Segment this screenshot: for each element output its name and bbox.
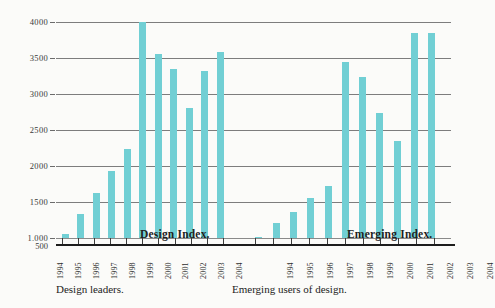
x-axis-label-design-1998: 1998	[129, 249, 137, 279]
x-axis-label-design-2004: 2004	[236, 249, 244, 279]
bar-emerging-2004	[428, 33, 435, 238]
y-tick-dash	[50, 166, 55, 167]
x-tick-emerging-1998	[327, 238, 328, 244]
x-axis-labels-emerging: 1994199519961997199819992000200120022003…	[287, 249, 495, 279]
x-axis-line	[56, 244, 455, 246]
x-tick-emerging-2004	[434, 238, 435, 244]
bar-emerging-2001	[376, 113, 383, 238]
x-tick-emerging-1997	[309, 238, 310, 244]
x-tick-emerging-2000	[363, 238, 364, 244]
x-axis-labels-design: 1994199519961997199819992000200120022003…	[57, 249, 244, 279]
bar-emerging-1999	[342, 62, 349, 238]
x-tick-emerging-1996	[291, 238, 292, 244]
bar-design-1995	[77, 214, 84, 238]
x-axis-label-emerging-1998: 1998	[367, 249, 375, 279]
bar-design-2003	[201, 71, 208, 238]
y-axis-tick-1500: 1500	[0, 197, 48, 207]
x-axis-label-emerging-1999: 1999	[387, 249, 395, 279]
x-axis-label-design-2003: 2003	[218, 249, 226, 279]
x-axis-label-emerging-2002: 2002	[447, 249, 455, 279]
bar-emerging-2003	[411, 33, 418, 238]
y-tick-dash	[50, 202, 55, 203]
bar-design-2004	[217, 52, 224, 238]
x-tick-design-1995	[78, 238, 79, 244]
x-tick-design-1996	[94, 238, 95, 244]
bar-design-1996	[93, 193, 100, 238]
x-axis-label-emerging-2004: 2004	[487, 249, 495, 279]
caption-emerging-users: Emerging users of design.	[232, 283, 347, 295]
x-axis-label-emerging-1996: 1996	[327, 249, 335, 279]
bar-emerging-1995	[273, 223, 280, 238]
bar-panel-emerging-index	[255, 22, 435, 238]
bar-emerging-2000	[359, 77, 366, 238]
y-tick-dash	[50, 22, 55, 23]
y-axis-tick-1000: 1.000	[0, 233, 48, 243]
x-tick-emerging-2002	[398, 238, 399, 244]
x-tick-design-2004	[223, 238, 224, 244]
bar-design-2000	[155, 54, 162, 238]
x-axis-label-design-1996: 1996	[93, 249, 101, 279]
plot-area: Design Index. Emerging Index.	[56, 22, 451, 238]
x-tick-design-2000	[158, 238, 159, 244]
x-axis-label-design-2000: 2000	[165, 249, 173, 279]
x-axis-label-emerging-1995: 1995	[307, 249, 315, 279]
bar-emerging-2002	[394, 141, 401, 238]
x-axis-label-emerging-1997: 1997	[347, 249, 355, 279]
x-axis-tick-row	[56, 238, 451, 244]
bar-design-1999	[139, 22, 146, 238]
x-tick-design-1994	[62, 238, 63, 244]
y-tick-dash	[50, 58, 55, 59]
x-axis-label-design-2001: 2001	[182, 249, 190, 279]
x-axis-label-emerging-1994: 1994	[287, 249, 295, 279]
x-axis-label-design-1994: 1994	[57, 249, 65, 279]
bar-emerging-1997	[307, 198, 314, 238]
y-axis-tick-4000: 4000	[0, 17, 48, 27]
x-axis-label-emerging-2000: 2000	[407, 249, 415, 279]
x-axis-label-design-1997: 1997	[111, 249, 119, 279]
x-tick-design-1997	[110, 238, 111, 244]
bar-design-1997	[108, 171, 115, 238]
y-tick-dash	[50, 94, 55, 95]
y-tick-dash	[50, 238, 55, 239]
bar-design-2002	[186, 108, 193, 238]
x-axis-label-design-1995: 1995	[75, 249, 83, 279]
x-tick-emerging-2001	[380, 238, 381, 244]
bar-emerging-1996	[290, 212, 297, 238]
x-tick-emerging-1994	[255, 238, 256, 244]
y-axis-tick-3000: 3000	[0, 89, 48, 99]
x-tick-design-2003	[207, 238, 208, 244]
x-tick-emerging-1999	[345, 238, 346, 244]
x-tick-design-1998	[126, 238, 127, 244]
bar-design-2001	[170, 69, 177, 238]
y-axis-tick-3500: 3500	[0, 53, 48, 63]
bar-design-1998	[124, 149, 131, 238]
y-axis-tick-2500: 2500	[0, 125, 48, 135]
x-axis-label-emerging-2003: 2003	[467, 249, 475, 279]
caption-design-leaders: Design leaders.	[56, 283, 124, 295]
x-axis-label-design-1999: 1999	[147, 249, 155, 279]
x-tick-design-2002	[191, 238, 192, 244]
x-axis-ticks-design	[62, 238, 224, 244]
bar-panel-design-index	[62, 22, 224, 238]
y-axis-tick-2000: 2000	[0, 161, 48, 171]
bar-emerging-1998	[325, 186, 332, 238]
y-tick-dash	[50, 130, 55, 131]
x-tick-design-1999	[142, 238, 143, 244]
x-axis-label-design-2002: 2002	[200, 249, 208, 279]
x-tick-emerging-2003	[416, 238, 417, 244]
x-tick-emerging-1995	[273, 238, 274, 244]
x-axis-label-emerging-2001: 2001	[427, 249, 435, 279]
x-axis-ticks-emerging	[255, 238, 435, 244]
x-tick-design-2001	[175, 238, 176, 244]
